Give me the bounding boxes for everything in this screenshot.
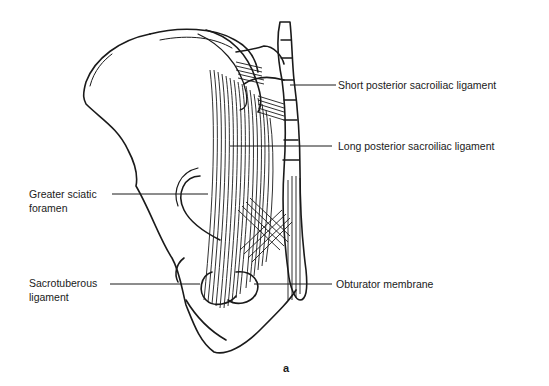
pelvis-ligament-diagram: Short posterior sacroiliac ligament Long… bbox=[0, 0, 549, 386]
label-greater-sciatic-line1: Greater sciatic bbox=[29, 188, 97, 201]
figure-caption: a bbox=[283, 362, 289, 374]
label-sacrotuberous-line1: Sacrotuberous bbox=[29, 277, 97, 290]
label-greater-sciatic-line2: foramen bbox=[29, 202, 68, 215]
label-sacrotuberous-line2: ligament bbox=[29, 291, 69, 304]
label-obturator-membrane: Obturator membrane bbox=[336, 278, 433, 291]
label-short-posterior-sacroiliac-ligament: Short posterior sacroiliac ligament bbox=[338, 79, 496, 92]
label-long-posterior-sacroiliac-ligament: Long posterior sacroiliac ligament bbox=[338, 140, 494, 153]
